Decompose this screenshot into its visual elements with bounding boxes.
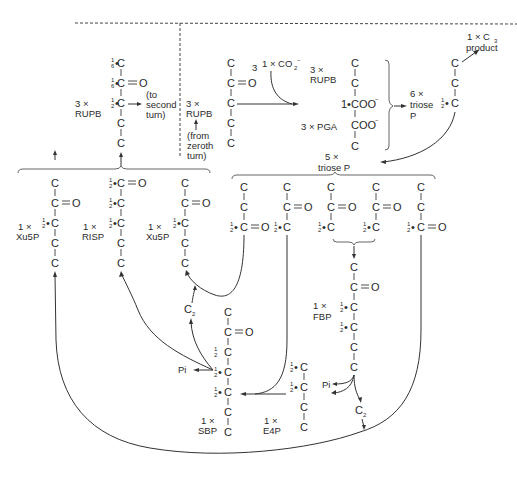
svg-text:C: C xyxy=(117,57,125,69)
svg-text:C: C xyxy=(327,201,335,213)
pi-right-label: Pi xyxy=(322,379,330,390)
svg-text:C: C xyxy=(417,221,425,233)
svg-text:C: C xyxy=(51,217,59,229)
svg-text:C: C xyxy=(283,181,291,193)
svg-text:2: 2 xyxy=(294,65,298,71)
svg-text:O: O xyxy=(371,281,380,293)
svg-text:C: C xyxy=(351,140,359,152)
svg-text:C: C xyxy=(351,77,359,89)
fbp-structure: C C O 1 2 • C 1 2 • C C C xyxy=(340,261,380,373)
svg-text:C: C xyxy=(227,137,235,149)
svg-text:C: C xyxy=(117,117,125,129)
svg-text:C: C xyxy=(181,237,189,249)
svg-text:C: C xyxy=(300,421,308,433)
svg-text:C: C xyxy=(283,221,291,233)
svg-text:C: C xyxy=(117,237,125,249)
xu5p-1-structure: C C O 1 2 • C C C xyxy=(42,177,81,269)
sbp-to-r5p-line xyxy=(122,275,213,370)
svg-text:•: • xyxy=(46,217,50,229)
svg-text:C: C xyxy=(117,197,125,209)
triose-2-structure: C C O 1 2 • C xyxy=(274,181,313,233)
svg-text:•: • xyxy=(278,221,282,233)
svg-text:1•COO: 1•COO xyxy=(341,98,376,110)
svg-text:C: C xyxy=(417,181,425,193)
svg-text:C: C xyxy=(327,221,335,233)
svg-text:C: C xyxy=(117,217,125,229)
svg-text:C: C xyxy=(224,406,232,418)
svg-text:C: C xyxy=(181,177,189,189)
triose-1-structure: C C 1 2 • C O xyxy=(230,181,270,233)
svg-text:2: 2 xyxy=(214,352,218,358)
svg-text:C: C xyxy=(451,77,459,89)
svg-text:•: • xyxy=(218,386,222,398)
fbp-label: FBP xyxy=(313,311,331,322)
svg-text:C: C xyxy=(240,221,248,233)
svg-text:C: C xyxy=(240,201,248,213)
pga-brace xyxy=(385,60,393,150)
svg-text:C: C xyxy=(350,321,358,333)
svg-text:C: C xyxy=(224,386,232,398)
rupb-to-second-turn: 1 6 • C 1 6 • C O 1 2 • C C C xyxy=(111,57,148,149)
triose5-brace xyxy=(232,172,435,179)
product-arrow xyxy=(462,52,476,62)
svg-text:•: • xyxy=(322,221,326,233)
c2-right-label: C xyxy=(355,404,363,416)
triose-5-structure: C C 1 2 • C O xyxy=(407,181,447,233)
r5p-structure: 1 2 • C O 1 2 • C 1 2 • C C C xyxy=(109,177,147,269)
svg-text:O: O xyxy=(245,326,254,338)
svg-text:C: C xyxy=(51,237,59,249)
c2-left-label: C xyxy=(184,303,192,315)
xu5p-2-label: Xu5P xyxy=(146,231,169,242)
svg-text:•: • xyxy=(234,221,238,233)
aldolase-brace xyxy=(333,239,375,245)
svg-text:2: 2 xyxy=(363,412,367,418)
sbp-label: SBP xyxy=(198,425,217,436)
svg-text:C: C xyxy=(417,201,425,213)
calvin-cycle-diagram: 1 6 • C 1 6 • C O 1 2 • C C C 3 × RUPB (… xyxy=(0,0,517,477)
svg-text:O: O xyxy=(438,221,447,233)
svg-text:turn): turn) xyxy=(187,150,207,161)
svg-text:C: C xyxy=(224,306,232,318)
svg-text:•: • xyxy=(411,221,415,233)
svg-text:C: C xyxy=(350,261,358,273)
svg-text:O: O xyxy=(248,77,257,89)
svg-text:C: C xyxy=(224,366,232,378)
svg-text:C: C xyxy=(51,177,59,189)
svg-text:3: 3 xyxy=(252,62,257,73)
svg-text:2: 2 xyxy=(192,311,196,317)
svg-text:C: C xyxy=(227,77,235,89)
xu5p-2-structure: C C O 1 2 • C C C xyxy=(173,177,211,269)
svg-text:C: C xyxy=(224,326,232,338)
svg-text:P: P xyxy=(410,110,416,121)
svg-text:C: C xyxy=(181,217,189,229)
svg-text:C: C xyxy=(117,177,125,189)
triose5-count: 5 × xyxy=(325,151,338,162)
triose5-name: triose P xyxy=(318,162,350,173)
svg-text:C: C xyxy=(227,57,235,69)
svg-text:•: • xyxy=(294,361,298,373)
sbp-structure: C C O 1 2 C 1 2 • C 1 2 • C C C xyxy=(214,306,254,438)
svg-text:C: C xyxy=(181,197,189,209)
rupb-right-name: RUPB xyxy=(310,74,336,85)
svg-text:C: C xyxy=(224,426,232,438)
product-name: product xyxy=(466,42,498,53)
triose-4-structure: C C O 1 2 • C xyxy=(363,181,402,233)
svg-text:C: C xyxy=(117,77,125,89)
triose-3-structure: C C O 1 2 • C xyxy=(318,181,357,233)
turn-boundary-dashed-line xyxy=(75,23,517,24)
svg-text:O: O xyxy=(393,201,402,213)
triose2-to-sbp-line xyxy=(255,235,287,394)
svg-text:C: C xyxy=(372,201,380,213)
svg-text:•: • xyxy=(294,381,298,393)
svg-text:C: C xyxy=(350,361,358,373)
svg-text:−: − xyxy=(375,117,379,123)
pi-left-label: Pi xyxy=(178,364,186,375)
svg-text:•: • xyxy=(218,366,222,378)
svg-text:−: − xyxy=(375,96,379,102)
svg-text:•: • xyxy=(367,221,371,233)
svg-text:O: O xyxy=(304,201,313,213)
svg-text:C: C xyxy=(283,201,291,213)
rupb-left-name: RUPB xyxy=(75,108,101,119)
svg-text:O: O xyxy=(138,177,147,189)
svg-text:C: C xyxy=(51,257,59,269)
